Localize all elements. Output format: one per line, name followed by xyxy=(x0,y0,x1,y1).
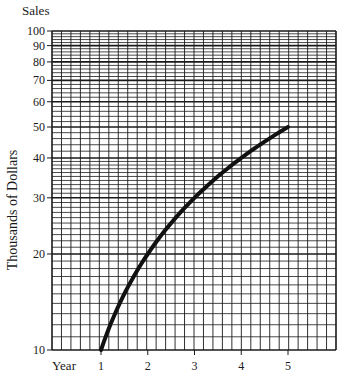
y-tick-label: 40 xyxy=(33,151,45,165)
x-tick-label: 1 xyxy=(98,359,104,373)
x-tick-label: 2 xyxy=(145,359,151,373)
grid xyxy=(52,31,336,350)
sales-chart: Sales Year Thousands of Dollars 10203040… xyxy=(0,0,344,379)
x-tick-label: 5 xyxy=(285,359,291,373)
chart-title: Sales xyxy=(22,3,49,18)
x-tick-labels: 12345 xyxy=(98,359,291,373)
x-axis-label: Year xyxy=(52,358,77,373)
y-axis-label: Thousands of Dollars xyxy=(5,150,20,271)
y-tick-label: 90 xyxy=(33,39,45,53)
y-tick-label: 30 xyxy=(33,191,45,205)
y-tick-label: 80 xyxy=(33,55,45,69)
x-tick-label: 4 xyxy=(238,359,244,373)
y-tick-label: 50 xyxy=(33,120,45,134)
y-tick-label: 100 xyxy=(27,24,45,38)
y-tick-label: 10 xyxy=(33,343,45,357)
y-tick-labels: 102030405060708090100 xyxy=(27,24,45,357)
x-tick-label: 3 xyxy=(192,359,198,373)
y-tick-label: 70 xyxy=(33,73,45,87)
y-tick-label: 60 xyxy=(33,95,45,109)
y-tick-label: 20 xyxy=(33,247,45,261)
